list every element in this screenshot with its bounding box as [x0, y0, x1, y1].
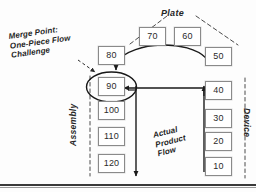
box-10: 10: [205, 157, 232, 176]
box-30: 30: [205, 109, 232, 128]
box-80: 80: [98, 46, 125, 65]
merge-point-leader: [78, 60, 95, 72]
annotation-merge-point: Merge Point: One-Piece Flow Challenge: [8, 24, 72, 61]
lane-label-assembly: Assembly: [68, 103, 78, 146]
lane-label-device: Device: [242, 108, 252, 137]
box-40: 40: [205, 81, 232, 100]
annotation-actual-product-flow: Actual Product Flow: [152, 124, 189, 159]
box-70: 70: [139, 27, 166, 46]
diagram-canvas: 706080509040100301102012010 Plate Assemb…: [0, 0, 256, 192]
slide-bottom-rule: [0, 184, 256, 186]
plate-guide-right: [196, 16, 238, 45]
box-110: 110: [98, 127, 125, 146]
box-120: 120: [98, 154, 125, 173]
lane-label-plate: Plate: [161, 8, 184, 18]
box-60: 60: [174, 27, 201, 46]
box-50: 50: [205, 47, 232, 66]
plate-merge-arc: [116, 45, 206, 70]
slide-bottom-rule-secondary: [0, 187, 256, 188]
box-90: 90: [98, 77, 125, 96]
box-20: 20: [205, 132, 232, 151]
box-100: 100: [98, 101, 125, 120]
